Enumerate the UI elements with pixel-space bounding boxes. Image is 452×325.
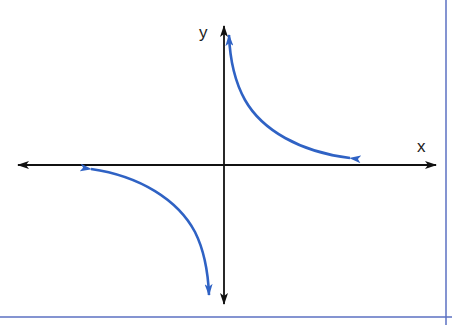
hyperbola-diagram: y x <box>0 0 452 325</box>
quadrant-I-branch <box>229 35 350 158</box>
x-axis-label: x <box>417 137 426 156</box>
y-axis-label: y <box>199 23 208 42</box>
quadrant-III-branch <box>91 169 209 295</box>
